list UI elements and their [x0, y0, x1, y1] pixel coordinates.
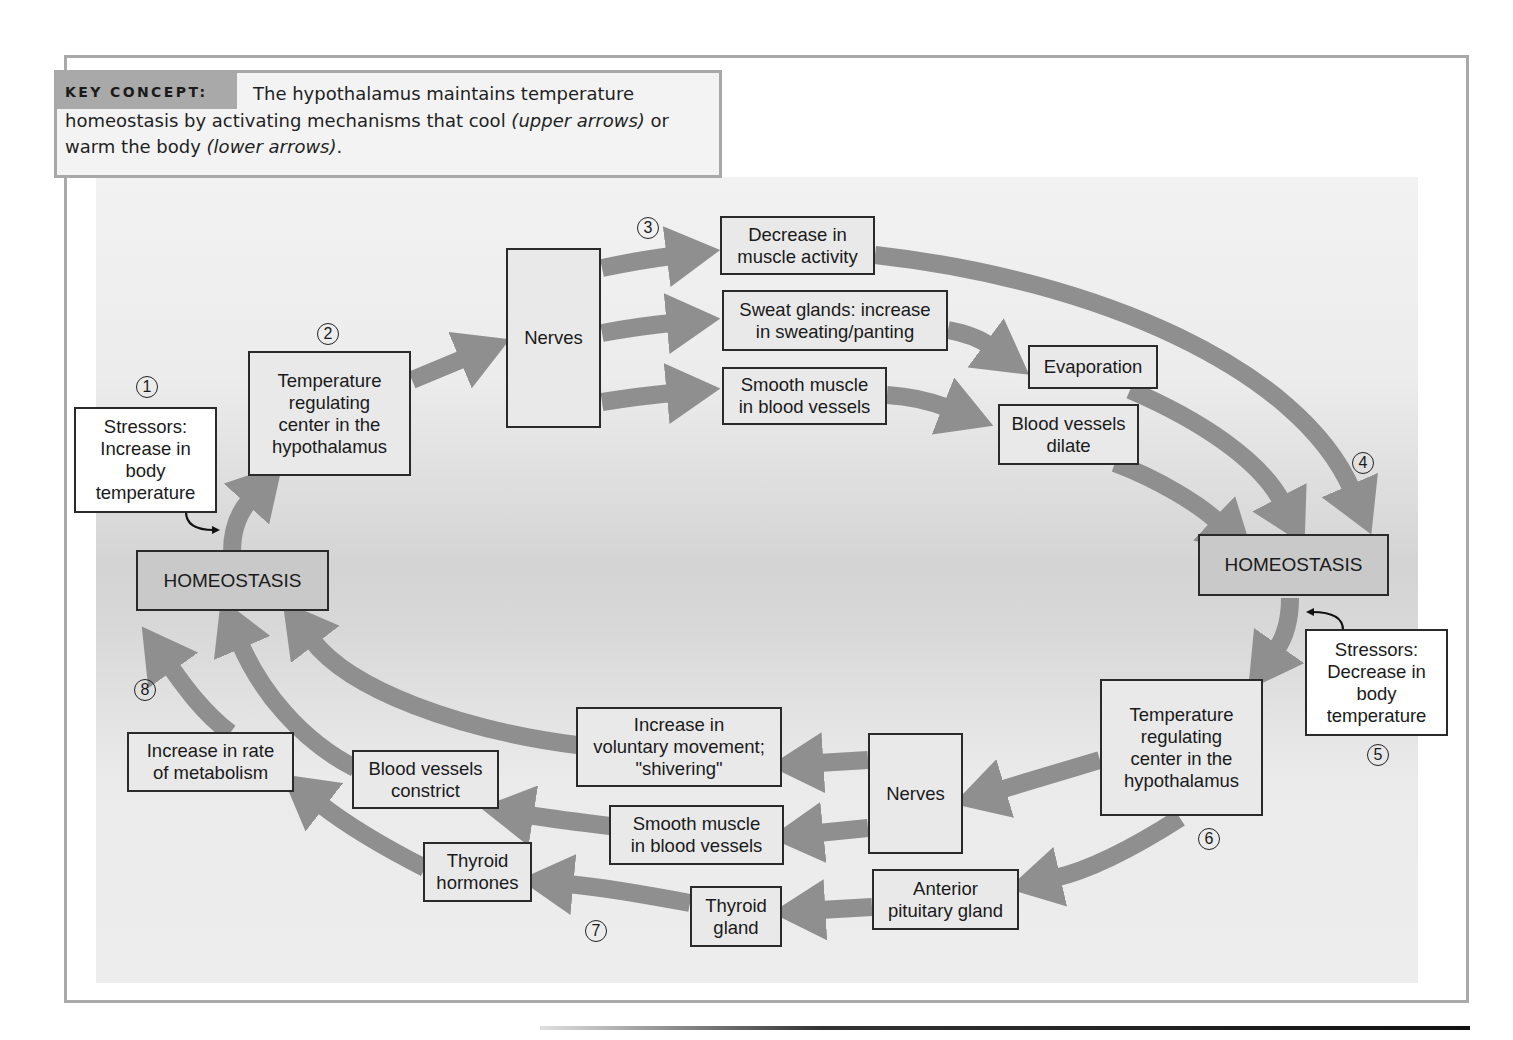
step-marker-4: 4: [1352, 452, 1374, 474]
stressor-arrow-right: [1312, 612, 1343, 630]
response-evaporation-box: Evaporation: [1028, 345, 1158, 389]
nerves-upper-box: Nerves: [506, 248, 601, 428]
stressor-increase-box: Stressors: Increase in body temperature: [74, 407, 217, 513]
arrow-smooth-to-dilate: [887, 395, 948, 408]
response-dilate-box: Blood vessels dilate: [998, 404, 1139, 465]
step-marker-7: 7: [585, 920, 607, 942]
arrow-shivering-to-homeostasis: [312, 640, 577, 745]
response-thyroid-hormones-box: Thyroid hormones: [423, 842, 532, 902]
step-marker-1: 1: [136, 376, 158, 398]
arrow-sweat-to-evaporation: [948, 330, 990, 346]
nerves-lower-box: Nerves: [868, 733, 963, 854]
effector-smooth-muscle-upper-box: Smooth muscle in blood vessels: [722, 367, 887, 425]
control-center-lower-box: Temperature regulating center in the hyp…: [1100, 679, 1263, 816]
step-marker-2: 2: [317, 323, 339, 345]
homeostasis-right-box: HOMEOSTASIS: [1198, 534, 1389, 596]
control-center-upper-box: Temperature regulating center in the hyp…: [248, 351, 411, 476]
anterior-pituitary-box: Anterior pituitary gland: [872, 869, 1019, 930]
arrow-center-to-nerves-lower: [1000, 760, 1100, 790]
stressor-arrow-left: [186, 512, 214, 530]
arrow-homeostasis-to-center-right: [1276, 598, 1290, 650]
arrow-pituitary-to-thyroid: [820, 907, 872, 910]
bottom-rule: [540, 1026, 1470, 1030]
arrows-layer: [0, 0, 1513, 1040]
arrow-thyroid-to-hormones: [568, 884, 690, 903]
arrow-center-to-pituitary: [1055, 818, 1180, 878]
homeostasis-left-box: HOMEOSTASIS: [136, 550, 329, 611]
effector-smooth-muscle-lower-box: Smooth muscle in blood vessels: [609, 805, 784, 865]
arrow-dilate-to-homeostasis: [1115, 463, 1218, 522]
stressor-decrease-box: Stressors: Decrease in body temperature: [1305, 629, 1448, 736]
arrow-metabolism-to-homeostasis: [170, 666, 230, 733]
effector-sweat-glands-box: Sweat glands: increase in sweating/panti…: [722, 290, 948, 351]
step-marker-3: 3: [637, 217, 659, 239]
arrow-nerves-to-smooth-lower: [818, 828, 868, 833]
arrow-smooth-to-constrict: [528, 815, 610, 826]
response-metabolism-box: Increase in rate of metabolism: [127, 732, 294, 792]
effector-thyroid-gland-box: Thyroid gland: [690, 886, 782, 947]
effector-shivering-box: Increase in voluntary movement; "shiveri…: [576, 707, 782, 787]
arrow-nerves-to-smooth: [602, 393, 672, 402]
arrow-homeostasis-to-center: [232, 500, 250, 552]
arrow-hormones-to-metabolism: [320, 804, 425, 868]
step-marker-5: 5: [1367, 744, 1389, 766]
response-constrict-box: Blood vessels constrict: [352, 750, 499, 809]
step-marker-6: 6: [1198, 828, 1220, 850]
arrow-nerves-to-sweat: [602, 323, 672, 333]
step-marker-8: 8: [134, 679, 156, 701]
arrow-nerves-to-muscle: [602, 256, 672, 268]
effector-muscle-activity-box: Decrease in muscle activity: [720, 216, 875, 275]
arrow-center-to-nerves: [412, 358, 465, 380]
arrow-nerves-to-shivering: [818, 760, 868, 763]
